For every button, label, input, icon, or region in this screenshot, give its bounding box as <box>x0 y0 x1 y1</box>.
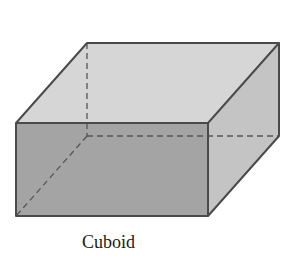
front-face <box>16 123 208 216</box>
cuboid-diagram <box>0 0 299 263</box>
figure-caption: Cuboid <box>0 232 217 253</box>
